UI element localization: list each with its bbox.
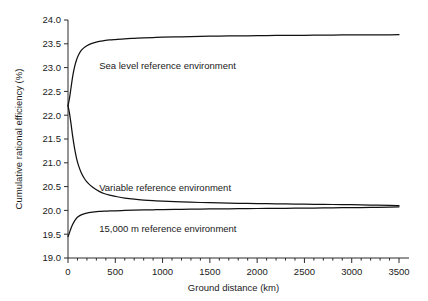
x-tick-label: 0: [65, 266, 70, 277]
y-tick-label: 20.0: [43, 205, 62, 216]
x-tick-label: 1500: [199, 266, 220, 277]
y-axis-title: Cumulative rational efficiency (%): [13, 69, 24, 210]
y-tick-label: 24.0: [43, 14, 62, 25]
x-tick-label: 1000: [152, 266, 173, 277]
line-chart: 19.019.520.020.521.021.522.022.523.023.5…: [0, 0, 428, 301]
curve-label-2: Variable reference environment: [99, 182, 231, 193]
y-tick-label: 23.5: [43, 38, 62, 49]
x-tick-label: 3500: [388, 266, 409, 277]
y-tick-label: 22.5: [43, 86, 62, 97]
y-tick-label: 19.5: [43, 229, 62, 240]
x-tick-label: 2000: [247, 266, 268, 277]
y-tick-label: 23.0: [43, 62, 62, 73]
y-tick-label: 22.0: [43, 110, 62, 121]
x-axis-title: Ground distance (km): [188, 282, 279, 293]
y-tick-label: 21.5: [43, 133, 62, 144]
x-tick-label: 2500: [294, 266, 315, 277]
y-tick-label: 21.0: [43, 157, 62, 168]
y-tick-label: 20.5: [43, 181, 62, 192]
x-tick-label: 500: [107, 266, 123, 277]
x-tick-label: 3000: [341, 266, 362, 277]
curve-label-1: Sea level reference environment: [99, 60, 236, 71]
y-tick-label: 19.0: [43, 252, 62, 263]
curve-label-3: 15,000 m reference environment: [99, 223, 237, 234]
chart-figure: 19.019.520.020.521.021.522.022.523.023.5…: [0, 0, 428, 301]
